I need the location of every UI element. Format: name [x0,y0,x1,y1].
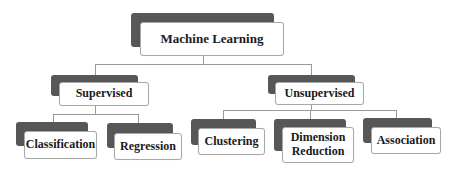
node-label: Clustering [198,128,265,155]
node-label: Machine Learning [140,22,284,56]
node-label: Association [371,127,441,154]
connector-supervised-down [95,106,96,114]
node-label: Unsupervised [275,82,364,105]
node-label: Dimension Reduction [282,127,354,163]
connector-root-down [203,55,204,64]
connector-level1-bar [95,64,312,65]
connector-supervised-bar [53,114,139,115]
node-label: Regression [114,133,182,160]
node-label: Supervised [59,82,149,106]
node-label: Classification [24,131,97,159]
